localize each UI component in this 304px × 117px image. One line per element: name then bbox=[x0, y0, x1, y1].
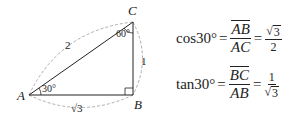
cos-function: cos30° bbox=[176, 30, 217, 47]
tan-function: tan30° bbox=[176, 76, 215, 93]
equals-sign: = bbox=[217, 76, 225, 93]
vertex-label-a: A bbox=[16, 88, 25, 103]
side-label-ac: 2 bbox=[65, 39, 71, 51]
side-label-ab: √3 bbox=[71, 102, 83, 114]
angle-label-a: 30° bbox=[42, 83, 56, 94]
tan-formula: tan30° = BC AB = 1 √3 bbox=[176, 68, 281, 101]
tan-result-numerator: 1 bbox=[268, 71, 276, 85]
tan-result-fraction: 1 √3 bbox=[264, 71, 279, 99]
sqrt-symbol: √3 bbox=[266, 25, 281, 38]
side-label-bc: 1 bbox=[141, 55, 147, 67]
equals-sign: = bbox=[253, 76, 261, 93]
equals-sign: = bbox=[219, 30, 227, 47]
cos-ratio-fraction: AB AC bbox=[230, 22, 250, 55]
triangle-diagram: A B C 30° 60° 2 1 √3 bbox=[0, 0, 160, 117]
right-angle-mark bbox=[125, 88, 133, 95]
equals-sign: = bbox=[254, 30, 262, 47]
cos-result-fraction: √3 2 bbox=[265, 25, 282, 53]
tan-ratio-fraction: BC AB bbox=[229, 68, 250, 101]
cos-formula: cos30° = AB AC = √3 2 bbox=[176, 22, 284, 55]
segment-bc: BC bbox=[230, 66, 249, 83]
segment-ab: AB bbox=[230, 84, 248, 101]
segment-ab: AB bbox=[231, 20, 249, 37]
angle-label-c: 60° bbox=[116, 28, 130, 39]
vertex-label-b: B bbox=[134, 97, 142, 112]
vertex-label-c: C bbox=[128, 3, 137, 18]
sqrt-symbol: √3 bbox=[264, 86, 279, 99]
cos-result-denominator: 2 bbox=[271, 40, 277, 53]
angle-arc-a bbox=[39, 88, 41, 95]
segment-ac: AC bbox=[231, 38, 250, 55]
